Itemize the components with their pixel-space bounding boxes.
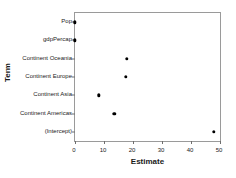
y-axis-tick-label: Pop: [61, 18, 72, 25]
data-point: [73, 39, 76, 42]
y-axis-tick-label: Continent Asia: [33, 91, 72, 98]
y-axis-tick-mark: [72, 131, 75, 132]
data-point: [125, 57, 128, 60]
coefficient-dot-plot: Term PopgdpPercapContinent OceaniaContin…: [0, 0, 236, 178]
y-axis-tick-label: (Intercept): [45, 127, 72, 134]
y-axis-tick-labels: PopgdpPercapContinent OceaniaContinent E…: [12, 12, 72, 142]
x-axis-tick-label: 30: [158, 146, 165, 154]
x-axis-tick-labels: 01020304050: [74, 146, 221, 156]
x-axis-tick-label: 20: [129, 146, 136, 154]
y-axis-tick-mark: [72, 95, 75, 96]
x-axis-title: Estimate: [74, 157, 221, 166]
x-axis-tick-mark: [133, 141, 134, 144]
x-axis-tick-mark: [104, 141, 105, 144]
data-point: [212, 130, 215, 133]
x-axis-tick-mark: [191, 141, 192, 144]
x-axis-tick-mark: [162, 141, 163, 144]
x-axis-tick-mark: [220, 141, 221, 144]
x-axis-tick-label: 0: [72, 146, 75, 154]
y-axis-tick-label: gdpPercap: [43, 36, 72, 43]
data-point: [73, 20, 76, 23]
plot-panel: [74, 12, 221, 142]
y-axis-title-label: Term: [3, 63, 12, 82]
y-axis-tick-mark: [72, 77, 75, 78]
y-axis-tick-mark: [72, 113, 75, 114]
y-axis-tick-label: Continent Americas: [20, 109, 72, 116]
x-axis-tick-mark: [75, 141, 76, 144]
data-point: [124, 75, 127, 78]
y-axis-tick-label: Continent Oceania: [22, 54, 72, 61]
y-axis-tick-mark: [72, 58, 75, 59]
data-point: [113, 112, 116, 115]
x-axis-tick-label: 40: [187, 146, 194, 154]
y-axis-tick-label: Continent Europe: [25, 73, 72, 80]
data-point: [97, 94, 100, 97]
x-axis-tick-label: 50: [216, 146, 223, 154]
x-axis-tick-label: 10: [100, 146, 107, 154]
